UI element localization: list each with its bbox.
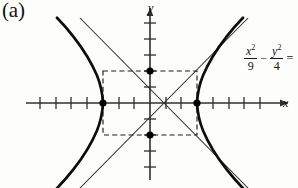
equation-term-2-denominator: 4 bbox=[272, 59, 282, 72]
equation-term-2: y2 4 bbox=[270, 45, 283, 72]
covertex-bottom-point bbox=[146, 131, 153, 138]
equation-operator: − bbox=[260, 51, 267, 66]
figure-part-label: (a) bbox=[2, 0, 25, 23]
equation-term-1: x2 9 bbox=[244, 45, 257, 72]
equation-term-2-numerator: y2 bbox=[270, 45, 283, 58]
equation-term-1-denominator: 9 bbox=[246, 59, 256, 72]
x-axis bbox=[26, 97, 288, 109]
vertex-left-point bbox=[99, 99, 106, 106]
hyperbola-figure: (a) y x x2 9 − y2 4 = bbox=[0, 0, 298, 188]
hyperbola-equation: x2 9 − y2 4 = bbox=[243, 45, 293, 72]
y-axis bbox=[144, 8, 156, 180]
covertex-top-point bbox=[146, 67, 153, 74]
vertex-right-point bbox=[193, 99, 200, 106]
y-axis-label: y bbox=[148, 1, 153, 16]
x-axis-label: x bbox=[283, 96, 288, 111]
equation-term-1-numerator: x2 bbox=[244, 45, 257, 58]
hyperbola-plot bbox=[0, 0, 298, 188]
equation-equals-sign: = bbox=[286, 51, 293, 66]
